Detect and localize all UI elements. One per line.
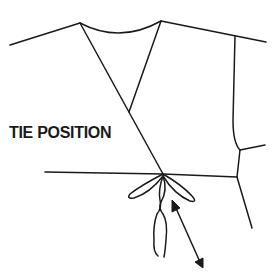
bow-right-loop [163, 174, 195, 201]
tie-position-arrow-icon [172, 200, 203, 268]
tie-position-label: TIE POSITION [9, 124, 111, 142]
wrap-front-edge [80, 23, 163, 174]
right-shoulder-line [161, 21, 266, 42]
tie-end-right [160, 176, 167, 257]
bodice-side-seam [237, 150, 240, 177]
armhole-seam [233, 36, 240, 150]
skirt-side-seam [237, 177, 252, 228]
garment-diagram: TIE POSITION [0, 0, 277, 277]
left-shoulder-line [10, 23, 80, 45]
back-neckline [80, 21, 161, 33]
tie-end-left [154, 176, 163, 256]
bow-left-loop [129, 174, 163, 198]
waistline [45, 172, 237, 177]
underlap-edge [129, 21, 161, 112]
sleeve-hem [240, 145, 265, 150]
